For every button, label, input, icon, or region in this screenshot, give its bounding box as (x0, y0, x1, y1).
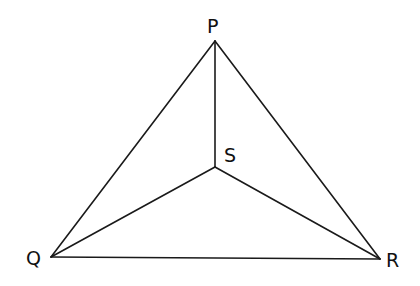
vertex-label-s: S (224, 144, 236, 166)
vertex-label-p: P (207, 15, 218, 37)
vertex-label-q: Q (26, 247, 41, 269)
segment-pq (51, 41, 215, 257)
vertex-label-r: R (386, 249, 399, 271)
segment-qr (51, 257, 380, 259)
triangle-diagram: P Q R S (0, 0, 420, 286)
segment-pr (215, 41, 380, 259)
segment-qs (51, 167, 215, 257)
segment-rs (215, 167, 380, 259)
